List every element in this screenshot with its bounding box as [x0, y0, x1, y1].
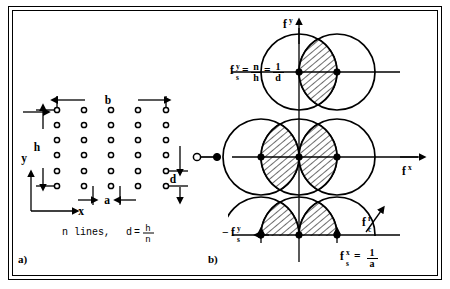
note-formula-eq: =	[134, 227, 140, 238]
label-axis-fx: f x	[402, 163, 412, 177]
formula-fsx: f x s = 1 a	[340, 247, 378, 269]
panel-label-b: b)	[208, 253, 218, 266]
axis-fx-letter: f	[402, 165, 406, 177]
figure-drawing: b h a d x y n lines, d = h n a)	[0, 0, 450, 289]
neg-fsy-superscript: y	[237, 224, 241, 233]
axis-fy-superscript: y	[289, 16, 293, 25]
panel-connector	[193, 153, 220, 160]
replica-center-dot	[334, 69, 340, 75]
fsx-equals: =	[354, 250, 361, 262]
note-n-lines: n lines, d = h n	[62, 224, 154, 245]
fsy-subscript: s	[236, 73, 239, 82]
replica-center-dot	[258, 154, 264, 160]
fsx-superscript: x	[346, 248, 350, 257]
fsy-letter: f	[230, 64, 234, 76]
fsy-denominator-2: d	[275, 72, 281, 83]
fsy-numerator-2: 1	[276, 61, 281, 72]
neg-fsy-letter: f	[231, 226, 235, 238]
figure-canvas: b h a d x y n lines, d = h n a)	[0, 0, 450, 289]
panel-label-a: a)	[18, 253, 28, 266]
label-axis-x: x	[78, 205, 84, 217]
fsy-numerator-1: n	[253, 61, 259, 72]
fsx-numerator: 1	[370, 247, 375, 258]
fc-subscript: c	[368, 225, 372, 234]
dot-grid	[54, 107, 168, 188]
label-axis-y: y	[21, 152, 27, 165]
fsx-subscript: s	[346, 259, 349, 268]
fsy-denominator-1: h	[253, 72, 259, 83]
label-dim-b: b	[105, 94, 111, 106]
note-text: n lines,	[62, 227, 110, 238]
fsx-letter: f	[340, 250, 344, 262]
replica-center-dot	[334, 154, 340, 160]
neg-fsy-subscript: s	[237, 235, 240, 244]
fsy-equals-2: =	[264, 64, 271, 76]
label-dim-d: d	[170, 173, 177, 185]
fsx-denominator: a	[370, 258, 375, 269]
panel-a-axes	[31, 176, 73, 211]
label-axis-fy: f y	[283, 16, 293, 30]
freq-row-middle	[223, 119, 420, 195]
replica-center-dot	[296, 154, 302, 160]
formula-neg-fsy: − f y s	[222, 224, 241, 244]
label-dim-h: h	[34, 141, 41, 153]
axis-fx-superscript: x	[408, 163, 412, 172]
axis-fy-letter: f	[283, 18, 287, 30]
fsy-superscript: y	[236, 62, 240, 71]
fc-letter: f	[362, 216, 366, 228]
replica-center-dot	[296, 69, 302, 75]
fsy-equals-1: =	[242, 64, 249, 76]
label-dim-a: a	[104, 194, 110, 206]
neg-fsy-minus: −	[222, 226, 229, 238]
panel-a-group	[23, 96, 221, 211]
note-formula-lhs: d	[126, 227, 132, 238]
dimension-d	[166, 146, 188, 198]
replica-center-dot	[296, 232, 302, 238]
note-formula-den: n	[145, 235, 150, 245]
